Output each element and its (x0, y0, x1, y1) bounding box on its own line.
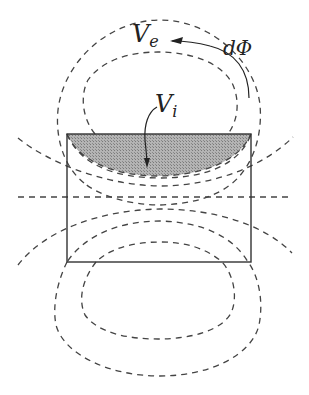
bottom-inner-field-line (82, 242, 235, 339)
flux-arrowhead-icon (170, 37, 183, 44)
shaded-region-vi (67, 134, 251, 176)
bottom-outer-field-line (55, 221, 261, 376)
label-dphi: dΦ (223, 36, 252, 60)
magnetic-field-diagram: Ve dΦ Vi (0, 0, 309, 395)
label-ve: Ve (132, 20, 159, 51)
label-vi: Vi (155, 90, 177, 121)
